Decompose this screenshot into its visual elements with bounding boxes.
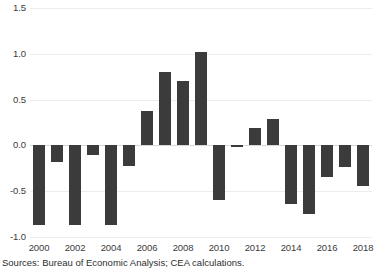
bar — [249, 128, 261, 145]
cropped-subtitle-remnant — [30, 0, 230, 3]
y-axis-tick-label: 0.5 — [0, 95, 26, 105]
bar — [105, 145, 117, 225]
bar — [123, 145, 135, 165]
x-axis-tick-label: 2008 — [166, 243, 200, 253]
bar — [195, 52, 207, 145]
bar — [33, 145, 45, 225]
y-axis-tick-label: -0.5 — [0, 186, 26, 196]
y-axis-tick-label: 1.5 — [0, 3, 26, 13]
sources-note: Sources: Bureau of Economic Analysis; CE… — [2, 258, 244, 268]
bar — [231, 145, 243, 147]
chart-container: 1.51.00.50.0-0.5-1.0 2000200220042006200… — [0, 0, 382, 271]
x-axis-tick-label: 2002 — [58, 243, 92, 253]
y-axis-tick-label: -1.0 — [0, 232, 26, 242]
plot-area — [30, 8, 372, 237]
gridline--1-0 — [30, 237, 372, 238]
bar — [303, 145, 315, 214]
x-axis-tick-label: 2016 — [310, 243, 344, 253]
bar — [357, 145, 369, 185]
bar — [267, 119, 279, 146]
y-axis-tick-label: 0.0 — [0, 140, 26, 150]
x-axis-tick-label: 2004 — [94, 243, 128, 253]
x-axis-tick-label: 2010 — [202, 243, 236, 253]
bar — [69, 145, 81, 225]
x-axis-tick-label: 2012 — [238, 243, 272, 253]
x-axis-tick-label: 2014 — [274, 243, 308, 253]
bar — [285, 145, 297, 204]
bar — [213, 145, 225, 200]
x-axis-tick-label: 2000 — [22, 243, 56, 253]
bar — [159, 72, 171, 145]
x-axis-labels: 2000200220042006200820102012201420162018 — [30, 243, 372, 257]
x-axis-tick-label: 2018 — [346, 243, 380, 253]
bar — [339, 145, 351, 167]
bar — [321, 145, 333, 177]
bar — [141, 111, 153, 146]
bars-group — [30, 8, 372, 237]
bar — [87, 145, 99, 154]
y-axis-tick-label: 1.0 — [0, 49, 26, 59]
x-axis-tick-label: 2006 — [130, 243, 164, 253]
bar — [177, 81, 189, 145]
bar — [51, 145, 63, 161]
